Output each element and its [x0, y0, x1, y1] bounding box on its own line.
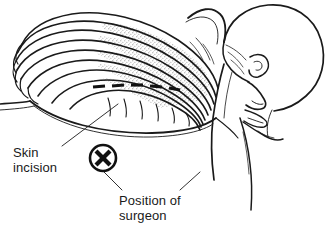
- surgeon-position-marker: [90, 145, 116, 171]
- label-position-of-surgeon: Position of surgeon: [119, 193, 181, 223]
- surgical-illustration-figure: Skin incision Position of surgeon: [0, 0, 330, 231]
- anatomy-group: [0, 5, 323, 210]
- leader-surgeon-from-marker: [104, 172, 122, 190]
- shoulder: [186, 9, 225, 64]
- torso-outline: [0, 101, 238, 138]
- head-profile: [223, 5, 323, 140]
- leader-surgeon-from-table: [180, 172, 200, 190]
- nose: [246, 82, 266, 109]
- ear: [249, 55, 268, 78]
- label-skin-incision: Skin incision: [13, 145, 57, 175]
- leader-lines: [62, 104, 200, 190]
